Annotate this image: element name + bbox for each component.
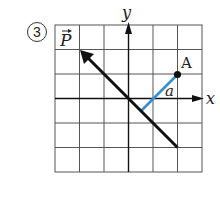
- label-x-axis: x: [206, 89, 215, 108]
- label-y-axis: y: [121, 3, 132, 22]
- label-vector-p: P: [59, 30, 72, 50]
- label-distance: a: [165, 82, 174, 100]
- label-point-a: A: [180, 54, 192, 72]
- y-axis-arrow-icon: [125, 22, 132, 34]
- vector-diagram: P y x A a: [0, 0, 220, 197]
